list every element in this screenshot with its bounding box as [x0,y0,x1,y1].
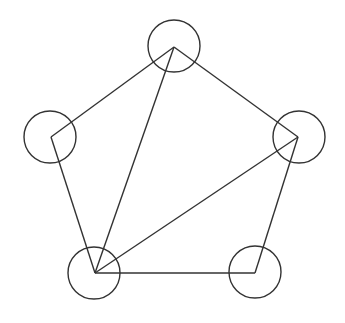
edge-bottom-left-left [51,137,95,273]
vertex-circle-top [148,20,200,72]
vertex-circle-left [24,111,76,163]
edge-bottom-left-right [95,137,298,273]
edge-top-right [174,47,298,137]
vertex-circle-right [273,111,325,163]
pentagon-diagram [0,0,345,323]
edge-right-bottom-right [255,137,298,273]
edge-left-top [51,47,174,137]
edge-bottom-left-top [95,47,174,273]
diagram-canvas [0,0,345,323]
